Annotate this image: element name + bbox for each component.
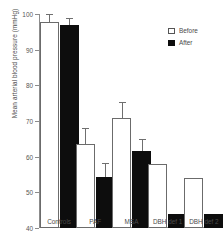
y-tick-label: 40 <box>26 225 33 232</box>
legend-label-after: After <box>179 39 193 46</box>
error-bar-line <box>142 139 143 151</box>
y-tick-mark <box>35 157 39 158</box>
x-category-label: DBH def 1 <box>153 218 182 225</box>
legend-item-before: Before <box>168 27 198 34</box>
chart-legend: Before After <box>168 27 198 51</box>
error-bar-line <box>49 14 50 23</box>
error-bar-line <box>122 102 123 118</box>
y-tick-mark <box>35 192 39 193</box>
error-bar-cap <box>46 14 53 15</box>
y-tick-mark <box>35 228 39 229</box>
x-category-label: DBH def 2 <box>189 218 218 225</box>
y-tick-mark <box>35 50 39 51</box>
legend-swatch-open-square-icon <box>168 28 175 34</box>
error-bar-cap <box>66 18 73 19</box>
error-bar-cap <box>102 163 109 164</box>
x-category-label: Controls <box>47 218 71 225</box>
x-category-label: MSA <box>125 218 139 225</box>
y-tick-label: 70 <box>26 118 33 125</box>
y-tick-label: 100 <box>22 11 33 18</box>
y-tick-label: 60 <box>26 153 33 160</box>
y-axis-title: Mean arterial blood pressure (mmHg) <box>11 0 18 144</box>
error-bar-line <box>69 18 70 25</box>
error-bar-cap <box>139 139 146 140</box>
legend-item-after: After <box>168 39 198 46</box>
x-category-label: PAF <box>89 218 101 225</box>
error-bar-cap <box>119 102 126 103</box>
y-tick-mark <box>35 121 39 122</box>
y-tick-mark <box>35 85 39 86</box>
bar-controls-before <box>40 22 59 228</box>
bar-msa-before <box>112 118 131 228</box>
legend-label-before: Before <box>179 27 198 34</box>
y-tick-mark <box>35 14 39 15</box>
error-bar-cap <box>82 128 89 129</box>
y-tick-label: 50 <box>26 189 33 196</box>
error-bar-line <box>85 128 86 144</box>
y-tick-label: 90 <box>26 46 33 53</box>
error-bar-line <box>105 163 106 177</box>
y-tick-label: 80 <box>26 82 33 89</box>
chart-container: Mean arterial blood pressure (mmHg) 4050… <box>0 0 224 245</box>
legend-swatch-filled-square-icon <box>168 40 175 46</box>
bar-paf-before <box>76 144 95 228</box>
